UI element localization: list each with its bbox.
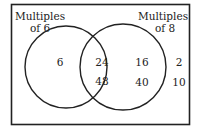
region-only-8-value: 40 [135,76,148,88]
region-only-6-value: 6 [57,56,64,68]
set-label-8-line1: Multiples [138,10,188,22]
region-both-value: 24 [95,56,109,68]
region-only-8-value: 16 [135,56,149,68]
set-label-6-line1: Multiples [15,10,65,22]
set-label-6-line2: of 6 [30,22,51,34]
region-neither-value: 2 [176,56,183,68]
set-circle-multiples-of-8 [80,24,166,110]
region-neither-value: 10 [172,76,185,88]
venn-diagram: Multiples of 6 Multiples of 8 6 24 48 16… [0,0,197,130]
region-both-value: 48 [95,75,108,87]
set-label-8-line2: of 8 [155,22,175,34]
